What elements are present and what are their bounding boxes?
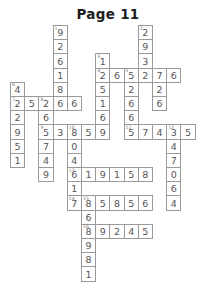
- puzzle-cell[interactable]: 6: [124, 96, 139, 111]
- puzzle-cell[interactable]: 123: [166, 124, 181, 139]
- puzzle-cell[interactable]: 147: [67, 195, 82, 210]
- puzzle-cell[interactable]: 7: [138, 124, 153, 139]
- cell-digit: 8: [82, 225, 95, 238]
- puzzle-cell[interactable]: 1: [81, 266, 96, 281]
- puzzle-cell[interactable]: 7: [166, 153, 181, 168]
- cell-digit: 5: [39, 126, 52, 139]
- puzzle-cell[interactable]: 6: [81, 210, 96, 225]
- puzzle-cell[interactable]: 1: [81, 167, 96, 182]
- cell-digit: 9: [39, 168, 52, 181]
- cell-digit: 9: [139, 40, 152, 53]
- puzzle-cell[interactable]: 6: [53, 53, 68, 68]
- cell-digit: 2: [139, 26, 152, 39]
- puzzle-cell[interactable]: 9: [81, 238, 96, 253]
- puzzle-cell[interactable]: 6: [109, 68, 124, 83]
- puzzle-cell[interactable]: 2: [138, 68, 153, 83]
- puzzle-cell[interactable]: 2: [124, 82, 139, 97]
- cell-digit: 5: [125, 168, 138, 181]
- puzzle-cell[interactable]: 3: [138, 53, 153, 68]
- puzzle-cell[interactable]: 4: [124, 224, 139, 239]
- puzzle-cell[interactable]: 9: [95, 124, 110, 139]
- puzzle-cell[interactable]: 8: [138, 167, 153, 182]
- puzzle-cell[interactable]: 6: [53, 96, 68, 111]
- puzzle-cell[interactable]: 8: [81, 252, 96, 267]
- puzzle-cell[interactable]: 5: [95, 82, 110, 97]
- puzzle-cell[interactable]: 95: [38, 124, 53, 139]
- puzzle-cell[interactable]: 9: [95, 224, 110, 239]
- puzzle-cell[interactable]: 6: [95, 110, 110, 125]
- puzzle-cell[interactable]: 2: [109, 224, 124, 239]
- cell-digit: 6: [139, 197, 152, 210]
- puzzle-cell[interactable]: 72: [10, 96, 25, 111]
- cell-digit: 6: [110, 69, 123, 82]
- puzzle-cell[interactable]: 5: [81, 124, 96, 139]
- puzzle-cell[interactable]: 1: [95, 96, 110, 111]
- puzzle-cell[interactable]: 5: [124, 167, 139, 182]
- cell-digit: 4: [153, 126, 166, 139]
- puzzle-cell[interactable]: 22: [138, 25, 153, 40]
- cell-digit: 6: [167, 182, 180, 195]
- puzzle-cell[interactable]: 1: [67, 181, 82, 196]
- puzzle-cell[interactable]: 1: [109, 167, 124, 182]
- puzzle-cell[interactable]: 5: [24, 96, 39, 111]
- puzzle-cell[interactable]: 31: [95, 53, 110, 68]
- puzzle-cell[interactable]: 7: [38, 139, 53, 154]
- puzzle-cell[interactable]: 19: [53, 25, 68, 40]
- puzzle-cell[interactable]: 108: [67, 124, 82, 139]
- puzzle-cell[interactable]: 0: [166, 167, 181, 182]
- puzzle-cell[interactable]: 6: [124, 110, 139, 125]
- puzzle-cell[interactable]: 2: [152, 82, 167, 97]
- puzzle-cell[interactable]: 64: [10, 82, 25, 97]
- puzzle-cell[interactable]: 6: [38, 110, 53, 125]
- puzzle-cell[interactable]: 0: [67, 139, 82, 154]
- puzzle-cell[interactable]: 5: [180, 124, 195, 139]
- puzzle-cell[interactable]: 9: [10, 124, 25, 139]
- cell-digit: 8: [54, 83, 67, 96]
- cell-digit: 4: [125, 225, 138, 238]
- puzzle-grid: 1926186229331426552765226472582661662666…: [0, 0, 216, 295]
- cell-digit: 2: [96, 69, 109, 82]
- cell-digit: 8: [68, 126, 81, 139]
- puzzle-cell[interactable]: 55: [124, 68, 139, 83]
- puzzle-cell[interactable]: 6: [166, 68, 181, 83]
- cell-digit: 6: [153, 97, 166, 110]
- puzzle-cell[interactable]: 5: [138, 224, 153, 239]
- puzzle-cell[interactable]: 8: [109, 195, 124, 210]
- puzzle-cell[interactable]: 42: [95, 68, 110, 83]
- cell-digit: 6: [39, 111, 52, 124]
- puzzle-cell[interactable]: 1: [53, 68, 68, 83]
- puzzle-cell[interactable]: 136: [67, 167, 82, 182]
- puzzle-cell[interactable]: 115: [124, 124, 139, 139]
- cell-digit: 2: [125, 83, 138, 96]
- puzzle-cell[interactable]: 8: [53, 82, 68, 97]
- cell-digit: 7: [167, 154, 180, 167]
- puzzle-cell[interactable]: 4: [38, 153, 53, 168]
- puzzle-cell[interactable]: 9: [95, 167, 110, 182]
- puzzle-cell[interactable]: 82: [38, 96, 53, 111]
- puzzle-cell[interactable]: 4: [67, 153, 82, 168]
- puzzle-cell[interactable]: 4: [166, 139, 181, 154]
- cell-digit: 5: [139, 225, 152, 238]
- cell-digit: 9: [11, 126, 24, 139]
- puzzle-cell[interactable]: 5: [124, 195, 139, 210]
- puzzle-cell[interactable]: 5: [10, 139, 25, 154]
- puzzle-cell[interactable]: 9: [38, 167, 53, 182]
- puzzle-cell[interactable]: 4: [152, 124, 167, 139]
- puzzle-cell[interactable]: 2: [53, 39, 68, 54]
- cell-digit: 9: [96, 225, 109, 238]
- puzzle-cell[interactable]: 6: [138, 195, 153, 210]
- puzzle-cell[interactable]: 6: [166, 181, 181, 196]
- cell-digit: 5: [25, 97, 38, 110]
- puzzle-cell[interactable]: 1: [10, 153, 25, 168]
- puzzle-cell[interactable]: 2: [10, 110, 25, 125]
- puzzle-cell[interactable]: 4: [166, 195, 181, 210]
- puzzle-cell[interactable]: 6: [67, 96, 82, 111]
- cell-digit: 0: [68, 140, 81, 153]
- puzzle-cell[interactable]: 5: [95, 195, 110, 210]
- puzzle-cell[interactable]: 6: [152, 96, 167, 111]
- puzzle-cell[interactable]: 7: [152, 68, 167, 83]
- puzzle-cell[interactable]: 9: [138, 39, 153, 54]
- puzzle-cell[interactable]: 168: [81, 224, 96, 239]
- puzzle-cell[interactable]: 158: [81, 195, 96, 210]
- puzzle-cell[interactable]: 3: [53, 124, 68, 139]
